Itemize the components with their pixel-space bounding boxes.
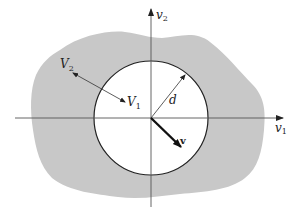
v-label: v (179, 135, 187, 146)
d-label: d (169, 93, 177, 107)
v1-axis-label: v1 (275, 121, 287, 136)
decoding-region-diagram: v2 v1 V2 V1 d v (0, 0, 299, 219)
v2-axis-label: v2 (156, 8, 168, 23)
